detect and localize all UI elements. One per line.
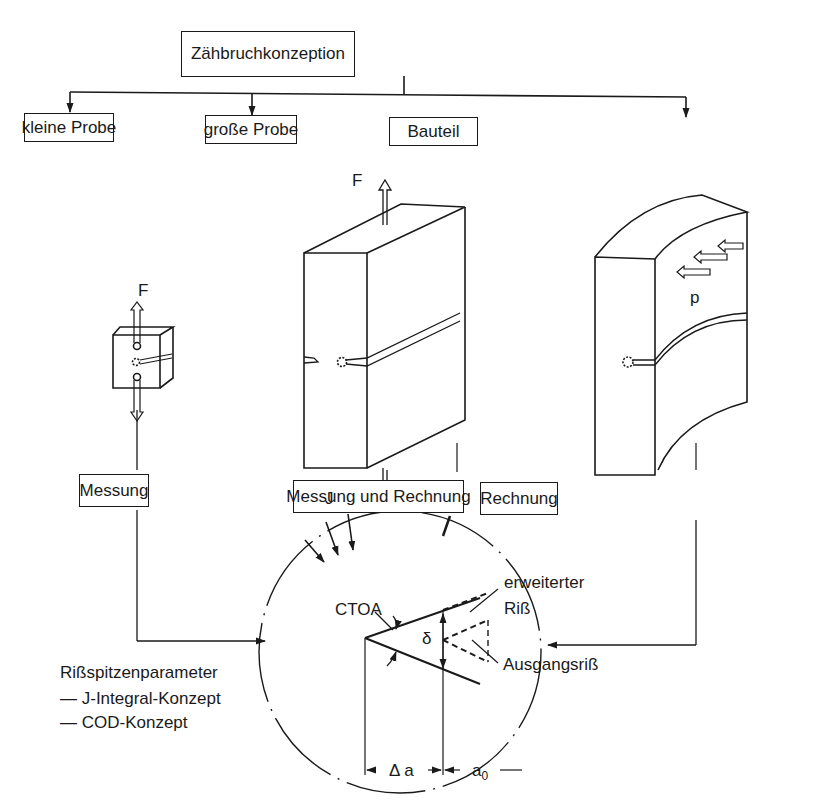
root-node-title: Zähbruchkonzeption bbox=[181, 31, 355, 77]
delta-a-label: Δ a bbox=[389, 762, 414, 779]
parameter-item-cod: — COD-Konzept bbox=[60, 714, 188, 731]
a0-subscript: 0 bbox=[481, 769, 488, 783]
tree-connectors bbox=[70, 76, 686, 117]
method-measurement-and-calculation: Messung und Rechnung bbox=[293, 480, 464, 513]
large-specimen bbox=[304, 180, 465, 505]
method-measurement: Messung bbox=[79, 474, 149, 507]
method-measurement-label: Messung bbox=[80, 481, 149, 501]
extended-crack-label-2: Riß bbox=[504, 600, 530, 617]
method-measurement-and-calculation-label: Messung und Rechnung bbox=[286, 487, 470, 507]
j-integral-label: J bbox=[325, 490, 334, 507]
branch-large-sample-label: große Probe bbox=[204, 120, 299, 140]
component-specimen bbox=[595, 195, 747, 475]
branch-component-label: Bauteil bbox=[408, 122, 460, 142]
method-calculation: Rechnung bbox=[480, 482, 558, 515]
branch-small-sample-label: kleine Probe bbox=[22, 118, 117, 138]
flow-lines bbox=[137, 410, 696, 645]
crack-tip-circle bbox=[259, 511, 541, 793]
method-calculation-label: Rechnung bbox=[480, 489, 558, 509]
branch-large-sample: große Probe bbox=[205, 115, 297, 144]
title-text: Zähbruchkonzeption bbox=[191, 44, 345, 64]
branch-component: Bauteil bbox=[389, 117, 478, 146]
delta-label: δ bbox=[422, 630, 431, 647]
pressure-label: p bbox=[690, 289, 699, 306]
branch-small-sample: kleine Probe bbox=[24, 113, 114, 142]
initial-crack-label: Ausgangsriß bbox=[503, 656, 598, 673]
small-specimen bbox=[113, 302, 173, 421]
extended-crack-label-1: erweiterter bbox=[504, 574, 584, 591]
ctoa-label: CTOA bbox=[335, 601, 382, 618]
force-label-small: F bbox=[138, 282, 148, 299]
a0-label: a0 bbox=[472, 762, 488, 782]
parameter-item-j-integral: — J-Integral-Konzept bbox=[60, 690, 221, 707]
force-label-large: F bbox=[352, 172, 362, 189]
crack-tip-parameters-heading: Rißspitzenparameter bbox=[60, 664, 218, 681]
